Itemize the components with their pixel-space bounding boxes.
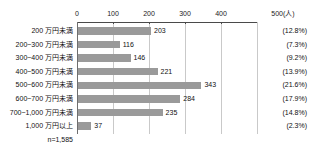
sample-size-note: n=1,585	[0, 134, 73, 145]
bar-row: 600~700 万円未満 284 (17.9%)	[0, 92, 311, 106]
x-tick-label-300: 300	[179, 9, 191, 18]
bar	[78, 27, 151, 34]
x-tick-label-400: 400	[215, 9, 227, 18]
x-tick-label-100: 100	[107, 9, 119, 18]
bar-row: 400~500 万円未満 221 (13.9%)	[0, 65, 311, 79]
bar-row: 200 万円未満 203 (12.8%)	[0, 24, 311, 38]
category-label: 300~400 万円未満	[16, 51, 73, 65]
bar-row: 200~300 万円未満 116 (7.3%)	[0, 38, 311, 52]
bar	[78, 82, 201, 89]
x-axis-tick-labels: 0 100 200 300 400 500(人)	[0, 9, 311, 20]
percent-label: (2.3%)	[286, 119, 307, 133]
x-axis-line	[77, 22, 258, 23]
bar-value-label: 203	[154, 24, 166, 38]
bar-row: 1,000 万円以上 37 (2.3%)	[0, 119, 311, 133]
category-label: 1,000 万円以上	[26, 119, 73, 133]
category-label: 400~500 万円未満	[16, 65, 73, 79]
bar	[78, 41, 120, 48]
bar-value-label: 221	[161, 65, 173, 79]
bar	[78, 95, 180, 102]
bar-value-label: 146	[134, 51, 146, 65]
bar-value-label: 343	[204, 78, 216, 92]
percent-label: (14.8%)	[282, 106, 307, 120]
bar	[78, 54, 131, 61]
bar-value-label: 284	[183, 92, 195, 106]
category-label: 200 万円未満	[31, 24, 73, 38]
bar	[78, 122, 91, 129]
bar-row: 500~600 万円未満 343 (21.6%)	[0, 78, 311, 92]
category-label: 200~300 万円未満	[16, 38, 73, 52]
bar	[78, 109, 163, 116]
bar-value-label: 235	[166, 106, 178, 120]
category-label: 600~700 万円未満	[16, 92, 73, 106]
category-label: 700~1,000 万円未満	[10, 106, 73, 120]
bar-row: 700~1,000 万円未満 235 (14.8%)	[0, 106, 311, 120]
bar-value-label: 116	[123, 38, 134, 52]
percent-label: (9.2%)	[286, 51, 307, 65]
percent-label: (7.3%)	[286, 38, 307, 52]
x-tick-label-0: 0	[75, 9, 79, 18]
percent-label: (12.8%)	[282, 24, 307, 38]
percent-label: (17.9%)	[282, 92, 307, 106]
bar	[78, 68, 158, 75]
category-label: 500~600 万円未満	[16, 78, 73, 92]
percent-label: (21.6%)	[282, 78, 307, 92]
x-tick-label-200: 200	[143, 9, 155, 18]
bar-row: 300~400 万円未満 146 (9.2%)	[0, 51, 311, 65]
x-tick-label-500: 500(人)	[271, 9, 294, 18]
percent-label: (13.9%)	[282, 65, 307, 79]
horizontal-bar-chart: 0 100 200 300 400 500(人) 200 万円未満 203 (1…	[0, 0, 311, 158]
bar-value-label: 37	[94, 119, 102, 133]
